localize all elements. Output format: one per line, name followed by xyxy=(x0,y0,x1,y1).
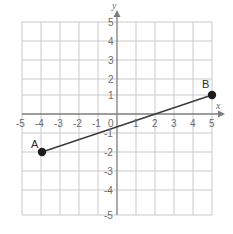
x-tick-label-neg3: -3 xyxy=(54,119,63,129)
x-tick-label-2: 2 xyxy=(152,119,158,129)
x-tick-label-neg1: -1 xyxy=(92,119,101,129)
x-tick-label-1: 1 xyxy=(133,119,139,129)
y-tick-label-4: 4 xyxy=(108,37,114,47)
graph-canvas xyxy=(0,0,233,234)
y-tick-label-neg5: -5 xyxy=(104,211,113,221)
y-tick-label-neg1: -1 xyxy=(104,129,113,139)
y-axis-arrowhead xyxy=(114,10,121,17)
point-b-marker xyxy=(208,91,216,99)
y-tick-label-3: 3 xyxy=(108,56,114,66)
x-tick-label-neg2: -2 xyxy=(73,119,82,129)
point-a-marker xyxy=(38,148,46,156)
x-axis xyxy=(22,111,225,118)
y-tick-label-neg3: -3 xyxy=(104,167,113,177)
x-tick-label-5: 5 xyxy=(209,119,215,129)
y-tick-label-neg2: -2 xyxy=(104,148,113,158)
y-tick-label-neg4: -4 xyxy=(104,186,113,196)
x-axis-name: x xyxy=(216,101,220,111)
x-tick-label-neg5: -5 xyxy=(16,119,25,129)
y-axis-name: y xyxy=(112,1,116,11)
x-tick-label-3: 3 xyxy=(171,119,177,129)
x-tick-label-4: 4 xyxy=(190,119,196,129)
coordinate-plane-figure: -5 -4 -3 -2 -1 0 1 2 3 4 5 5 4 3 2 1 -1 … xyxy=(0,0,233,234)
y-tick-label-1: 1 xyxy=(108,91,114,101)
segment-ab xyxy=(42,95,212,152)
x-axis-arrowhead xyxy=(218,111,225,118)
point-a-label: A xyxy=(31,139,38,150)
x-tick-label-neg4: -4 xyxy=(35,119,44,129)
y-tick-label-5: 5 xyxy=(108,18,114,28)
y-tick-label-2: 2 xyxy=(108,75,114,85)
point-b-label: B xyxy=(202,79,209,90)
